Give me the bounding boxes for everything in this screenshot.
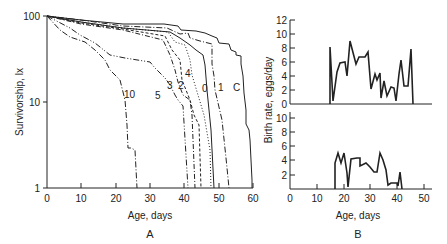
panel-b-top-line	[330, 41, 413, 104]
y-tick-100: 100	[23, 11, 40, 22]
figure: 100 10 1 0 10 20 30 40 50 60 Age, days S…	[0, 0, 447, 244]
panel-a-x-tick-labels: 0 10 20 30 40 50 60	[44, 193, 259, 204]
x-tick-10: 10	[75, 193, 87, 204]
bt-y-8: 8	[281, 43, 287, 54]
x-tick-60: 60	[247, 193, 259, 204]
curve-c	[47, 16, 252, 188]
panel-a-series-labels: 10 5 3 2 4 0 1 C	[124, 68, 240, 101]
series-label-3: 3	[167, 80, 173, 91]
y-tick-1: 1	[34, 183, 40, 194]
bt-y-10: 10	[276, 29, 288, 40]
panel-b-x-tick-labels: 0 10 20 30 40 50	[287, 193, 430, 204]
panel-a-ylabel: Survivorship, lx	[14, 68, 25, 136]
panel-b-bottom-y-tick-labels: 2 4 6 8 10	[276, 113, 288, 181]
curve-0	[47, 16, 214, 188]
y-tick-10: 10	[29, 97, 41, 108]
series-label-c: C	[233, 82, 240, 93]
x-tick-20: 20	[110, 193, 122, 204]
series-label-4: 4	[185, 68, 191, 79]
b-x-50: 50	[418, 193, 430, 204]
bt-y-2: 2	[281, 85, 287, 96]
bt-y-6: 6	[281, 57, 287, 68]
series-label-5: 5	[155, 90, 161, 101]
panel-a-curves	[47, 16, 252, 188]
panel-b-top-y-tick-labels: 0 2 4 6 8 10 12	[276, 15, 288, 110]
panel-a-label: A	[146, 228, 154, 240]
b-x-0: 0	[287, 193, 293, 204]
curve-5	[47, 16, 188, 188]
panel-b-xlabel: Age, days	[336, 210, 380, 221]
curve-10	[47, 16, 137, 188]
x-tick-0: 0	[44, 193, 50, 204]
x-tick-40: 40	[178, 193, 190, 204]
series-label-2: 2	[178, 80, 184, 91]
curve-2	[47, 16, 201, 188]
b-x-20: 20	[338, 193, 350, 204]
panel-a-axes	[43, 16, 253, 188]
bb-y-2: 2	[281, 170, 287, 181]
panel-b-bottom-line	[335, 153, 402, 189]
series-label-10: 10	[124, 89, 136, 100]
bt-y-4: 4	[281, 71, 287, 82]
panel-a-xlabel: Age, days	[128, 210, 172, 221]
b-x-30: 30	[364, 193, 376, 204]
bb-y-6: 6	[281, 141, 287, 152]
bb-y-10: 10	[276, 113, 288, 124]
series-label-0: 0	[202, 83, 208, 94]
curve-3	[47, 16, 195, 188]
panel-b-bottom-axes	[290, 112, 432, 189]
x-tick-30: 30	[144, 193, 156, 204]
bt-y-0: 0	[281, 99, 287, 110]
x-tick-50: 50	[213, 193, 225, 204]
panel-b-label: B	[354, 228, 361, 240]
b-x-40: 40	[391, 193, 403, 204]
bt-y-12: 12	[276, 15, 288, 26]
b-x-10: 10	[311, 193, 323, 204]
bb-y-8: 8	[281, 127, 287, 138]
panel-a-y-tick-labels: 100 10 1	[23, 11, 40, 194]
panel-b-ylabel: Birth rate, eggs/day	[263, 57, 274, 144]
bb-y-4: 4	[281, 155, 287, 166]
series-label-1: 1	[218, 82, 224, 93]
curve-1	[47, 16, 229, 188]
